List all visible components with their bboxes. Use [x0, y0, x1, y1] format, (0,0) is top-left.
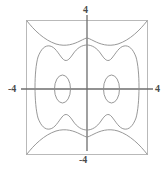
contour-plot-figure: 4 4 -4 -4: [0, 0, 168, 171]
plot-canvas: [0, 0, 168, 171]
axis-label-right: 4: [155, 84, 160, 94]
axis-label-bottom: -4: [79, 155, 87, 165]
axis-label-left: -4: [8, 84, 16, 94]
axis-label-top: 4: [83, 5, 88, 15]
